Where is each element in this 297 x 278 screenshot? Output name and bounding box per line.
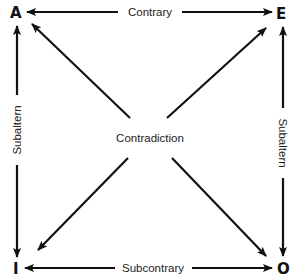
subaltern-left-label: Subaltern <box>11 105 23 154</box>
corner-i: I <box>13 260 19 278</box>
subcontrary-label: Subcontrary <box>122 262 184 274</box>
corner-a: A <box>10 4 22 22</box>
corner-e: E <box>276 5 286 23</box>
contrary-label: Contrary <box>128 6 172 18</box>
contradiction-label: Contradiction <box>116 132 184 144</box>
subaltern-right-label: Subaltern <box>277 118 289 167</box>
corner-o: O <box>277 260 290 278</box>
square-of-opposition-diagram: A E I O Contrary Subcontrary Contradicti… <box>0 0 297 278</box>
